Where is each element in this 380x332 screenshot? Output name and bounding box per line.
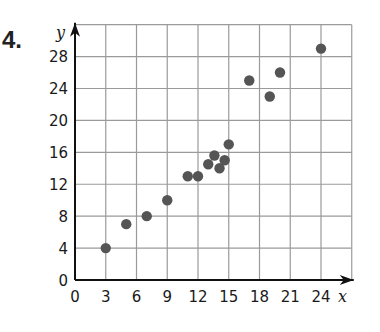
- data-point: [193, 171, 203, 181]
- y-tick-label: 28: [49, 48, 68, 66]
- data-point: [316, 43, 326, 53]
- data-point: [121, 219, 131, 229]
- data-point: [162, 195, 172, 205]
- x-axis-label: x: [338, 287, 347, 306]
- data-point: [244, 75, 254, 85]
- data-point: [183, 171, 193, 181]
- data-point: [101, 243, 111, 253]
- y-tick-label: 16: [49, 144, 68, 162]
- x-tick-label: 9: [162, 288, 172, 306]
- x-tick-label: 12: [188, 288, 207, 306]
- y-tick-label: 0: [58, 272, 68, 290]
- data-points: [101, 43, 327, 253]
- data-point: [203, 159, 213, 169]
- data-point: [224, 139, 234, 149]
- x-tick-label: 15: [219, 288, 238, 306]
- data-point: [275, 67, 285, 77]
- x-tick-label: 6: [132, 288, 142, 306]
- data-point: [219, 155, 229, 165]
- x-tick-label: 18: [250, 288, 269, 306]
- x-tick-label: 24: [311, 288, 330, 306]
- x-tick-label: 21: [281, 288, 300, 306]
- y-tick-label: 4: [58, 240, 68, 258]
- y-tick-label: 12: [49, 176, 68, 194]
- x-tick-label: 3: [101, 288, 111, 306]
- data-point: [265, 91, 275, 101]
- x-tick-label: 0: [70, 288, 80, 306]
- y-tick-label: 8: [58, 208, 68, 226]
- y-tick-label: 20: [49, 112, 68, 130]
- data-point: [209, 150, 219, 160]
- y-axis-label: y: [55, 23, 66, 42]
- data-point: [142, 211, 152, 221]
- scatter-plot: 036912151821240481216202428 x y: [0, 0, 380, 332]
- y-tick-label: 24: [49, 80, 68, 98]
